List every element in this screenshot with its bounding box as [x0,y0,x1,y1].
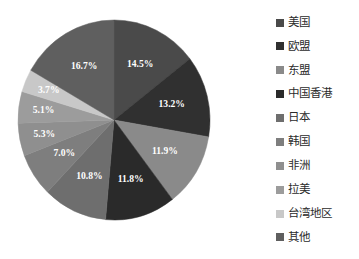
pie-plot-area: 14.5%13.2%11.9%11.8%10.8%7.0%5.3%5.1%3.7… [16,19,212,221]
pie-slice-label: 7.0% [54,147,76,158]
legend-swatch-icon [276,42,284,50]
legend-item-label: 其他 [288,232,310,244]
legend-item[interactable]: 欧盟 [276,38,358,55]
pie-slice-label: 10.8% [76,170,102,181]
legend-item[interactable]: 韩国 [276,133,358,150]
pie-slice-label: 13.2% [159,98,185,109]
legend-item-label: 日本 [288,112,310,124]
pie-svg: 14.5%13.2%11.9%11.8%10.8%7.0%5.3%5.1%3.7… [16,19,212,221]
pie-slice-group [18,20,210,220]
legend-item-label: 东盟 [288,65,310,77]
legend-item-label: 欧盟 [288,41,310,53]
legend-swatch-icon [276,162,284,170]
pie-slice-label: 5.3% [34,128,56,139]
legend-item[interactable]: 东盟 [276,62,358,79]
legend-item[interactable]: 非洲 [276,157,358,174]
legend-swatch-icon [276,138,284,146]
legend-swatch-icon [276,233,284,241]
legend-item[interactable]: 日本 [276,110,358,127]
chart-legend: 美国欧盟东盟中国香港日本韩国非洲拉美台湾地区其他 [276,14,358,246]
legend-item-label: 美国 [288,17,310,29]
legend-item-label: 中国香港 [288,88,332,100]
legend-item[interactable]: 台湾地区 [276,205,358,222]
pie-slice-label: 3.7% [38,84,60,95]
pie-slice-label: 14.5% [127,58,153,69]
legend-swatch-icon [276,210,284,218]
legend-item[interactable]: 中国香港 [276,86,358,103]
legend-item-label: 拉美 [288,184,310,196]
legend-swatch-icon [276,66,284,74]
legend-swatch-icon [276,19,284,27]
legend-item-label: 非洲 [288,160,310,172]
pie-slice-label: 11.9% [152,145,178,156]
pie-chart-figure: 14.5%13.2%11.9%11.8%10.8%7.0%5.3%5.1%3.7… [0,0,359,259]
legend-item[interactable]: 拉美 [276,181,358,198]
legend-item[interactable]: 美国 [276,14,358,31]
legend-swatch-icon [276,186,284,194]
legend-item[interactable]: 其他 [276,229,358,246]
pie-slice-label: 5.1% [33,104,55,115]
pie-slice-label: 16.7% [71,60,97,71]
legend-item-label: 韩国 [288,136,310,148]
pie-slice-label: 11.8% [118,173,144,184]
legend-swatch-icon [276,114,284,122]
legend-swatch-icon [276,90,284,98]
legend-item-label: 台湾地区 [288,208,332,220]
